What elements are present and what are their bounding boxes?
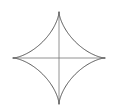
astroid-svg [0,0,119,110]
astroid-diagram [0,0,119,110]
